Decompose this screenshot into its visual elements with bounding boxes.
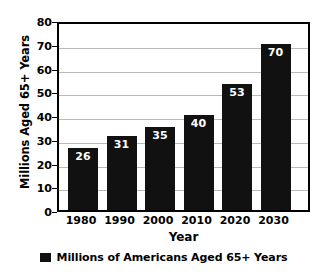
bar-value-label: 53 [222, 87, 252, 99]
bar-value-label: 26 [68, 151, 98, 163]
legend-entry-label: Millions of Americans Aged 65+ Years [57, 251, 288, 264]
bar[interactable]: 26 [68, 148, 98, 210]
y-axis-tick-label: 80 [24, 17, 52, 28]
plot-area: 263135405370 [57, 22, 310, 212]
bar[interactable]: 70 [261, 44, 291, 210]
bar-value-label: 40 [184, 118, 214, 130]
y-axis-tick-label: 50 [24, 88, 52, 99]
bar[interactable]: 40 [184, 115, 214, 210]
y-axis-tick-label: 20 [24, 159, 52, 170]
y-axis-tick-mark [52, 212, 57, 213]
x-axis-tick-label: 1990 [104, 214, 135, 228]
x-axis-title: Year [57, 230, 310, 244]
x-axis-tick-label: 2010 [181, 214, 212, 228]
y-axis-tick-label: 40 [24, 112, 52, 123]
x-axis-tick-labels: 198019902000201020202030 [57, 214, 310, 230]
x-axis-tick-label: 1980 [66, 214, 97, 228]
bar[interactable]: 31 [107, 136, 137, 210]
x-axis-tick-label: 2030 [258, 214, 289, 228]
y-axis-tick-label: 30 [24, 135, 52, 146]
x-axis-tick-label: 2020 [220, 214, 251, 228]
bar[interactable]: 35 [145, 127, 175, 210]
chart-legend: Millions of Americans Aged 65+ Years [0, 251, 327, 264]
x-axis-tick-label: 2000 [143, 214, 174, 228]
y-axis-tick-labels: 01020304050607080 [24, 22, 52, 212]
y-axis-tick-label: 60 [24, 64, 52, 75]
y-axis-tick-label: 10 [24, 183, 52, 194]
bar-value-label: 70 [261, 47, 291, 59]
bar[interactable]: 53 [222, 84, 252, 210]
bar-value-label: 35 [145, 130, 175, 142]
y-axis-tick-label: 70 [24, 40, 52, 51]
bar-value-label: 31 [107, 139, 137, 151]
legend-swatch-icon [40, 253, 51, 262]
bars-layer: 263135405370 [59, 24, 308, 210]
y-axis-tick-label: 0 [24, 207, 52, 218]
bar-chart: Millions Aged 65+ Years 0102030405060708… [0, 0, 327, 274]
